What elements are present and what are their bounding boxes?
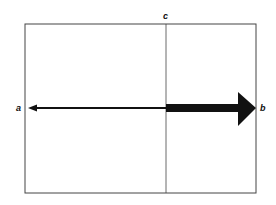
label-b: b — [260, 103, 266, 113]
force-diagram: c a b — [0, 0, 276, 205]
thick-arrow-shaft — [166, 104, 239, 112]
thick-arrowhead-icon — [238, 92, 256, 126]
thick-arrow-to-b — [166, 92, 256, 126]
thin-arrow-to-a — [28, 105, 166, 112]
label-a: a — [16, 103, 21, 113]
thin-arrowhead-icon — [28, 105, 37, 112]
label-c: c — [163, 11, 168, 21]
